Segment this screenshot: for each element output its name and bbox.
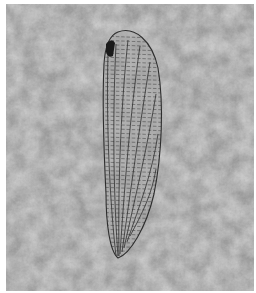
stone-slab-photo — [6, 4, 254, 291]
fossil-scene — [6, 4, 254, 291]
